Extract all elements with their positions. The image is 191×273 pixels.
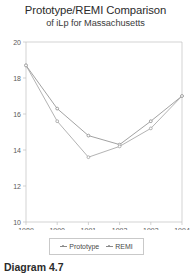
series-line-prototype <box>26 65 182 144</box>
axis-layer <box>23 42 182 225</box>
title-block: Prototype/REMI Comparison of iLp for Mas… <box>0 4 191 29</box>
data-point <box>118 145 121 148</box>
series-line-remi <box>26 65 182 157</box>
figure-caption: Diagram 4.7 <box>4 261 124 273</box>
y-tick-label: 18 <box>13 75 21 82</box>
figure-container: Prototype/REMI Comparison of iLp for Mas… <box>0 0 191 273</box>
y-tick-label: 10 <box>13 219 21 226</box>
x-tick-labels: 198919901991199219931994 <box>18 227 190 230</box>
legend-entry-prototype: Prototype <box>60 243 99 250</box>
x-tick-label: 1993 <box>143 227 159 230</box>
data-point <box>87 134 90 137</box>
plot-area: 101214161820 198919901991199219931994 <box>0 38 191 230</box>
legend-marker-icon <box>60 244 67 249</box>
chart-subtitle: of iLp for Massachusetts <box>0 18 191 29</box>
data-point <box>181 95 184 98</box>
legend-entry-remi: REMI <box>106 243 133 250</box>
y-tick-label: 14 <box>13 147 21 154</box>
x-tick-label: 1989 <box>18 227 34 230</box>
y-tick-label: 12 <box>13 183 21 190</box>
chart-title: Prototype/REMI Comparison <box>0 4 191 17</box>
y-tick-label: 20 <box>13 39 21 46</box>
legend-label-prototype: Prototype <box>69 243 99 250</box>
data-point <box>56 107 59 110</box>
chart-legend: Prototype REMI <box>49 238 144 255</box>
data-point <box>87 156 90 159</box>
line-chart-svg: 101214161820 198919901991199219931994 <box>0 38 191 230</box>
legend-marker-icon <box>106 244 113 249</box>
legend-label-remi: REMI <box>115 243 133 250</box>
x-tick-label: 1992 <box>112 227 128 230</box>
data-point <box>25 64 28 67</box>
x-tick-label: 1994 <box>174 227 190 230</box>
data-point <box>56 120 59 123</box>
y-tick-labels: 101214161820 <box>13 39 21 226</box>
data-point <box>149 127 152 130</box>
x-tick-label: 1990 <box>49 227 65 230</box>
y-tick-label: 16 <box>13 111 21 118</box>
x-tick-label: 1991 <box>81 227 97 230</box>
series-layer <box>25 64 184 159</box>
data-point <box>149 120 152 123</box>
